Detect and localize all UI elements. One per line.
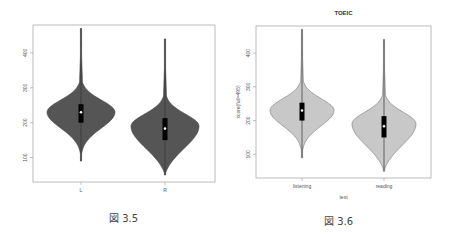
chart-title: TOEIC [334, 10, 353, 16]
median-point-listening [301, 109, 304, 112]
chart-2: 100200300400listeningreadingTOEICtestsco… [235, 10, 431, 200]
median-point-L [80, 111, 83, 114]
y-tick-label: 100 [245, 150, 251, 159]
y-tick-label: 300 [245, 82, 251, 91]
median-point-R [164, 127, 167, 130]
x-tick-label: reading [376, 183, 393, 189]
y-tick-label: 400 [22, 49, 28, 58]
y-tick-label: 200 [245, 116, 251, 125]
x-axis-title: test [339, 194, 348, 200]
caption-fig-3-5: 図 3.5 [109, 210, 138, 225]
y-tick-label: 200 [22, 118, 28, 127]
y-tick-label: 300 [22, 83, 28, 92]
y-tick-label: 100 [22, 153, 28, 162]
figure-canvas: 100200300400LR100200300400listeningreadi… [0, 0, 449, 234]
chart-1: 100200300400LR [22, 25, 215, 193]
median-point-reading [383, 125, 386, 128]
x-tick-label: R [163, 187, 167, 193]
x-tick-label: listening [293, 183, 312, 189]
y-axis-title: score(full=495) [235, 85, 241, 119]
x-tick-label: L [80, 187, 83, 193]
y-tick-label: 400 [245, 49, 251, 58]
caption-fig-3-6: 図 3.6 [324, 213, 353, 228]
